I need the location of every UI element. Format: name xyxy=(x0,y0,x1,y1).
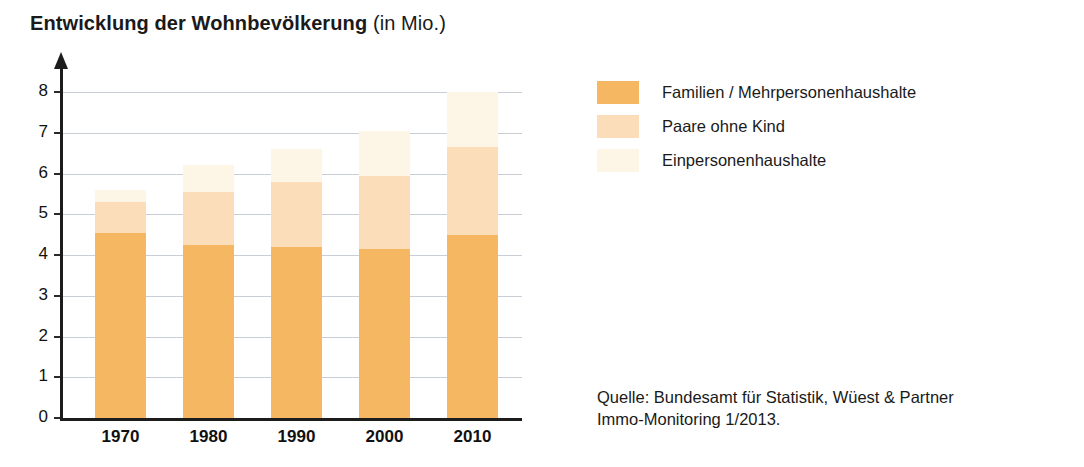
bar-1980[interactable] xyxy=(183,165,234,418)
y-axis-tick-label: 6 xyxy=(22,163,48,183)
bar-segment xyxy=(183,245,234,418)
bar-2000[interactable] xyxy=(359,131,410,418)
y-axis-tick-label: 8 xyxy=(22,81,48,101)
x-axis-tick-label: 1980 xyxy=(164,427,254,447)
bar-segment xyxy=(271,247,322,418)
source-note: Quelle: Bundesamt für Statistik, Wüest &… xyxy=(597,387,954,431)
bar-segment xyxy=(95,190,146,202)
y-axis-arrow-icon xyxy=(54,52,68,69)
chart-plot-area: 876543210 19701980199020002010 xyxy=(0,0,560,467)
bar-segment xyxy=(95,233,146,418)
y-axis-tick-label: 1 xyxy=(22,366,48,386)
bar-2010[interactable] xyxy=(447,92,498,418)
source-line-1: Quelle: Bundesamt für Statistik, Wüest &… xyxy=(597,387,954,409)
legend-item-label: Paare ohne Kind xyxy=(662,117,785,136)
legend-swatch xyxy=(597,81,639,104)
bar-1990[interactable] xyxy=(271,149,322,418)
x-axis-tick-label: 2000 xyxy=(340,427,430,447)
chart-legend: Familien / MehrpersonenhaushaltePaare oh… xyxy=(597,80,916,182)
y-axis-tick-label: 0 xyxy=(22,407,48,427)
bar-segment xyxy=(271,182,322,247)
bar-segment xyxy=(183,192,234,245)
x-axis-tick-label: 2010 xyxy=(428,427,518,447)
bar-segment xyxy=(359,131,410,176)
source-line-2: Immo-Monitoring 1/2013. xyxy=(597,409,954,431)
legend-item-2[interactable]: Einpersonenhaushalte xyxy=(597,148,916,172)
x-axis-tick-label: 1970 xyxy=(76,427,166,447)
legend-item-label: Einpersonenhaushalte xyxy=(662,151,826,170)
y-axis-tick-label: 7 xyxy=(22,122,48,142)
legend-item-0[interactable]: Familien / Mehrpersonenhaushalte xyxy=(597,80,916,104)
bar-segment xyxy=(271,149,322,182)
y-axis-tick-label: 4 xyxy=(22,244,48,264)
y-axis-line xyxy=(60,66,63,420)
bar-segment xyxy=(183,165,234,191)
legend-swatch xyxy=(597,115,639,138)
bar-segment xyxy=(95,202,146,233)
legend-item-1[interactable]: Paare ohne Kind xyxy=(597,114,916,138)
legend-swatch xyxy=(597,149,639,172)
y-axis-tick-label: 2 xyxy=(22,326,48,346)
x-axis-line xyxy=(60,418,522,421)
bar-segment xyxy=(359,176,410,249)
legend-item-label: Familien / Mehrpersonenhaushalte xyxy=(662,83,916,102)
bar-segment xyxy=(447,235,498,418)
bar-segment xyxy=(447,147,498,235)
bar-1970[interactable] xyxy=(95,190,146,418)
y-axis-tick-label: 5 xyxy=(22,203,48,223)
bar-segment xyxy=(447,92,498,147)
bar-segment xyxy=(359,249,410,418)
y-axis-tick-label: 3 xyxy=(22,285,48,305)
x-axis-tick-label: 1990 xyxy=(252,427,342,447)
